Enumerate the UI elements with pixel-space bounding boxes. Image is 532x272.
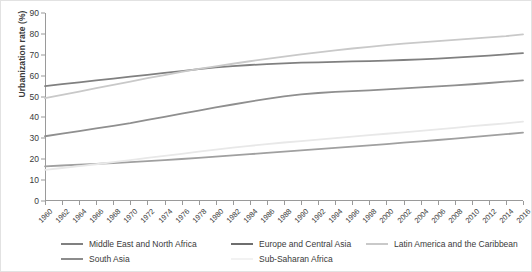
x-tick-label: 1982	[224, 207, 242, 225]
x-tick-label: 1992	[310, 207, 328, 225]
y-tick-label: 90	[30, 8, 45, 18]
x-tick-label: 1996	[344, 207, 362, 225]
x-axis-ticks: 1960196219641966196819701972197419761978…	[45, 201, 523, 237]
legend-label: Latin America and the Caribbean	[394, 239, 518, 249]
x-tick-mark	[284, 201, 285, 205]
x-tick-mark	[489, 201, 490, 205]
y-tick-label: 50	[30, 92, 45, 102]
legend-swatch-icon	[61, 243, 83, 245]
x-tick-mark	[250, 201, 251, 205]
legend-swatch-icon	[61, 258, 83, 260]
x-tick-mark	[335, 201, 336, 205]
x-tick-mark	[62, 201, 63, 205]
legend-item: Middle East and North Africa	[61, 237, 197, 251]
x-tick-mark	[352, 201, 353, 205]
y-tick-label: 0	[34, 196, 45, 206]
x-tick-label: 1970	[122, 207, 140, 225]
x-tick-label: 2014	[497, 207, 515, 225]
chart-figure: Urbanization rate (%) 010203040506070809…	[0, 0, 532, 272]
y-tick-label: 10	[30, 175, 45, 185]
x-tick-mark	[79, 201, 80, 205]
x-tick-label: 2006	[429, 207, 447, 225]
x-tick-label: 1980	[207, 207, 225, 225]
x-tick-mark	[130, 201, 131, 205]
x-tick-label: 2000	[378, 207, 396, 225]
y-tick-label: 20	[30, 154, 45, 164]
x-tick-label: 1994	[327, 207, 345, 225]
x-tick-mark	[369, 201, 370, 205]
x-tick-mark	[45, 201, 46, 205]
x-tick-mark	[199, 201, 200, 205]
x-tick-label: 1984	[241, 207, 259, 225]
x-tick-label: 1968	[105, 207, 123, 225]
x-tick-label: 1962	[54, 207, 72, 225]
x-tick-label: 1988	[275, 207, 293, 225]
legend-label: Sub-Saharan Africa	[259, 254, 333, 264]
x-tick-mark	[506, 201, 507, 205]
x-tick-mark	[216, 201, 217, 205]
x-tick-label: 1978	[190, 207, 208, 225]
series-lines	[45, 13, 523, 201]
legend-item: Sub-Saharan Africa	[231, 252, 333, 266]
x-tick-label: 1990	[293, 207, 311, 225]
x-tick-label: 1976	[173, 207, 191, 225]
x-tick-label: 2010	[463, 207, 481, 225]
x-tick-mark	[233, 201, 234, 205]
x-tick-mark	[523, 201, 524, 205]
legend-label: Middle East and North Africa	[89, 239, 197, 249]
y-axis-label: Urbanization rate (%)	[17, 0, 27, 119]
x-tick-label: 1998	[361, 207, 379, 225]
x-tick-label: 1964	[71, 207, 89, 225]
x-tick-mark	[421, 201, 422, 205]
legend-swatch-icon	[366, 243, 388, 245]
legend-label: South Asia	[89, 254, 130, 264]
x-tick-mark	[147, 201, 148, 205]
legend-item: Europe and Central Asia	[231, 237, 351, 251]
y-tick-label: 80	[30, 29, 45, 39]
x-tick-mark	[96, 201, 97, 205]
x-tick-mark	[404, 201, 405, 205]
legend-swatch-icon	[231, 258, 253, 260]
legend-item: Latin America and the Caribbean	[366, 237, 518, 251]
x-tick-mark	[318, 201, 319, 205]
x-tick-mark	[182, 201, 183, 205]
x-tick-label: 1972	[139, 207, 157, 225]
y-tick-label: 30	[30, 133, 45, 143]
x-tick-label: 2008	[446, 207, 464, 225]
x-tick-label: 1960	[36, 207, 54, 225]
legend-item: South Asia	[61, 252, 130, 266]
y-tick-label: 60	[30, 71, 45, 81]
x-tick-mark	[267, 201, 268, 205]
x-tick-label: 2016	[514, 207, 532, 225]
legend-label: Europe and Central Asia	[259, 239, 351, 249]
x-tick-label: 2004	[412, 207, 430, 225]
x-tick-mark	[165, 201, 166, 205]
x-tick-mark	[301, 201, 302, 205]
x-tick-label: 2002	[395, 207, 413, 225]
series-line	[45, 34, 523, 98]
x-tick-label: 1986	[258, 207, 276, 225]
x-tick-mark	[386, 201, 387, 205]
legend-swatch-icon	[231, 243, 253, 245]
series-line	[45, 53, 523, 86]
plot-area: 0102030405060708090	[45, 13, 523, 201]
x-tick-label: 1974	[156, 207, 174, 225]
x-tick-label: 2012	[480, 207, 498, 225]
y-tick-label: 40	[30, 112, 45, 122]
x-tick-mark	[113, 201, 114, 205]
y-tick-label: 70	[30, 50, 45, 60]
x-tick-mark	[455, 201, 456, 205]
x-tick-mark	[472, 201, 473, 205]
x-tick-mark	[438, 201, 439, 205]
x-tick-label: 1966	[88, 207, 106, 225]
